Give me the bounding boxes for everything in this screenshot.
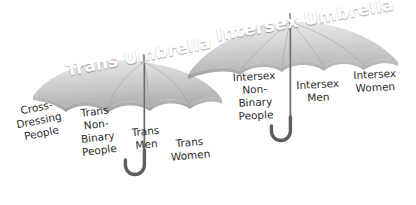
umbrella-diagram: Trans Umbrella Cross- Dressing People Tr… (0, 0, 416, 205)
intersex-shaft (289, 22, 291, 120)
intersex-canopy (0, 0, 416, 205)
intersex-handle-hook (271, 117, 290, 141)
intersex-finial-icon (289, 13, 291, 22)
intersex-umbrella-svg (0, 0, 416, 205)
